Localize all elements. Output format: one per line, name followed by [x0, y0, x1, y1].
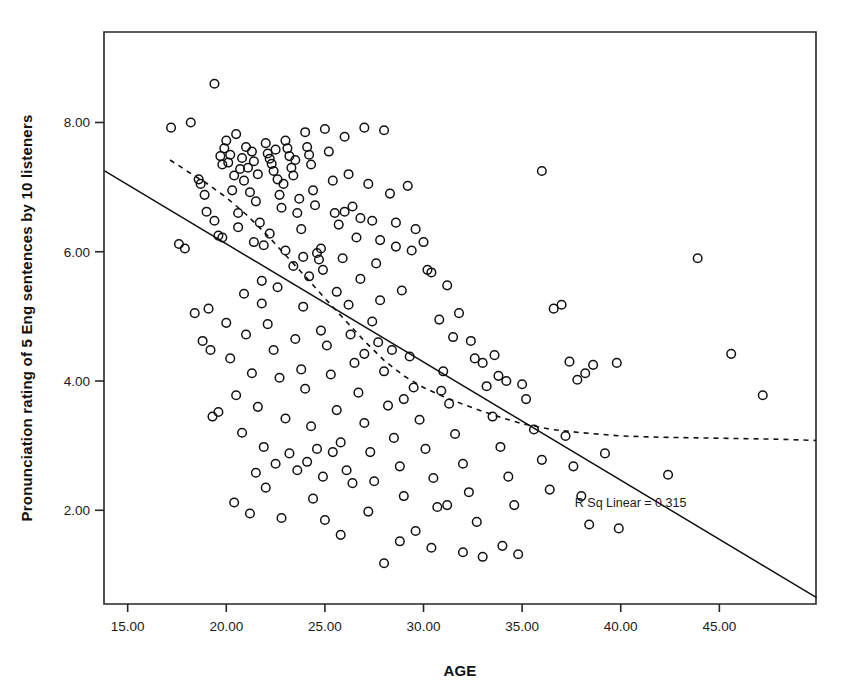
x-axis-title: AGE	[443, 662, 476, 679]
x-tick-label: 40.00	[604, 619, 638, 634]
y-tick-label: 6.00	[64, 245, 90, 260]
chart-annotations: R Sq Linear = 0.315	[575, 496, 687, 510]
figure-background	[0, 0, 854, 698]
y-axis-title: Pronunciation rating of 5 Eng sentences …	[18, 115, 35, 522]
scatter-plot-figure: 15.0020.0025.0030.0035.0040.0045.00 2.00…	[0, 0, 854, 698]
x-tick-label: 35.00	[505, 619, 539, 634]
y-tick-label: 4.00	[64, 374, 90, 389]
x-tick-label: 15.00	[111, 619, 145, 634]
plot-canvas: 15.0020.0025.0030.0035.0040.0045.00 2.00…	[0, 0, 854, 698]
x-tick-label: 25.00	[308, 619, 342, 634]
r-squared-label: R Sq Linear = 0.315	[575, 496, 687, 510]
x-tick-label: 45.00	[702, 619, 736, 634]
y-tick-label: 2.00	[64, 503, 90, 518]
x-tick-label: 30.00	[407, 619, 441, 634]
y-tick-label: 8.00	[64, 115, 90, 130]
x-tick-label: 20.00	[209, 619, 243, 634]
